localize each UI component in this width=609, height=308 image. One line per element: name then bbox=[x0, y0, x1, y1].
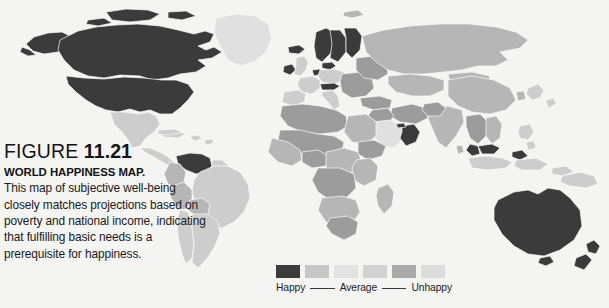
figure-page: .land { stroke:#fafafa; stroke-width:0.7… bbox=[0, 0, 609, 308]
legend-swatch-4 bbox=[363, 265, 387, 278]
legend-label-unhappy: Unhappy bbox=[411, 282, 452, 293]
legend-swatch-row bbox=[276, 265, 452, 278]
figure-title: WORLD HAPPINESS MAP. bbox=[4, 166, 218, 178]
legend-label-average: Average bbox=[340, 282, 377, 293]
figure-description: This map of subjective well-being closel… bbox=[4, 180, 214, 261]
legend-rule-left bbox=[310, 288, 334, 289]
legend-swatch-6 bbox=[421, 265, 445, 278]
legend-swatch-2 bbox=[305, 265, 329, 278]
legend-rule-right bbox=[382, 288, 406, 289]
figure-label: FIGURE bbox=[4, 140, 78, 162]
region-uae bbox=[396, 123, 406, 128]
legend-label-happy: Happy bbox=[276, 282, 305, 293]
figure-number: 11.21 bbox=[84, 140, 132, 162]
map-legend: Happy Average Unhappy bbox=[276, 265, 452, 293]
figure-caption-block: FIGURE 11.21 WORLD HAPPINESS MAP. This m… bbox=[4, 141, 218, 262]
legend-swatch-1 bbox=[276, 265, 300, 278]
legend-swatch-5 bbox=[392, 265, 416, 278]
region-korea bbox=[516, 91, 526, 101]
legend-label-row: Happy Average Unhappy bbox=[276, 282, 452, 293]
legend-swatch-3 bbox=[334, 265, 358, 278]
figure-heading: FIGURE 11.21 bbox=[4, 141, 218, 161]
